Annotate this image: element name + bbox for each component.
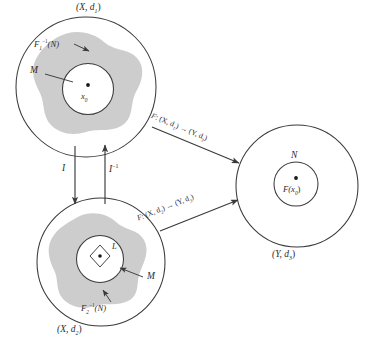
label-space-top-left: (X, d1) — [76, 3, 101, 15]
diagram-svg — [0, 0, 365, 343]
label-identity-up: I−1 — [109, 164, 118, 175]
label-space-right: (Y, d3) — [272, 250, 295, 262]
label-neighborhood-N: N — [291, 151, 297, 161]
label-preimage-top: F1−1(N) — [34, 39, 59, 51]
top-left-point-x0 — [86, 83, 90, 87]
label-point-Fx0: F(x0) — [283, 185, 300, 196]
label-inner-L: L — [112, 242, 117, 251]
label-space-bottom-left: (X, d2) — [57, 325, 82, 337]
label-identity-down: I — [62, 164, 65, 174]
label-M-top: M — [30, 66, 38, 76]
label-point-x0: x0 — [81, 92, 88, 103]
right-point-Fx0 — [294, 176, 298, 180]
map-arrows — [152, 127, 239, 231]
bottom-left-point — [98, 254, 102, 258]
identity-arrows — [75, 145, 105, 204]
top-left-neighborhood-M — [63, 64, 114, 115]
right-neighborhood-N — [274, 162, 318, 206]
label-preimage-bottom: F2−1(N) — [81, 303, 106, 315]
diagram-canvas: (X, d1) F1−1(N) M x0 I I−1 F: (X, d1) → … — [0, 0, 365, 343]
label-M-bottom: M — [147, 272, 155, 282]
